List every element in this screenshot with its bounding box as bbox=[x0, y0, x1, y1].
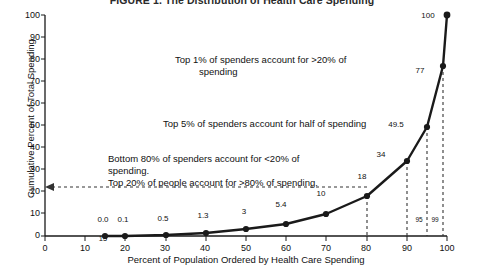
spending-curve bbox=[105, 15, 447, 236]
chart-container: FIGURE 1. The Distribution of Health Car… bbox=[0, 0, 484, 274]
reference-arrow bbox=[45, 183, 367, 191]
data-point-markers bbox=[102, 12, 451, 240]
plot-area bbox=[0, 0, 484, 274]
droplines bbox=[367, 66, 443, 236]
